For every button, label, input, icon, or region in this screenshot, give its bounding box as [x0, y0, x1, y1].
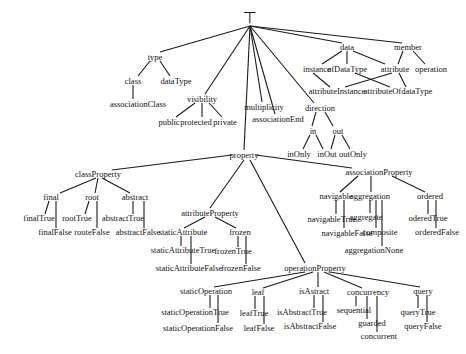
- node-frozenFalse: frozenFalse: [221, 264, 261, 273]
- edge: [244, 26, 250, 150]
- node-aggregate: aggregate: [349, 213, 382, 222]
- edge: [413, 51, 425, 64]
- edge: [322, 51, 342, 64]
- edge: [210, 160, 244, 208]
- node-staticOperationTrue: staticOperationTrue: [161, 308, 229, 317]
- node-leaf: leaf: [252, 288, 265, 297]
- node-orderedFalse: orderedFalse: [415, 228, 459, 237]
- node-multiplicity: multiplicity: [244, 103, 284, 112]
- node-attributeOfdataType: attributeOfdataType: [364, 87, 432, 96]
- node-protected: protected: [180, 118, 212, 127]
- tree-diagram: [0, 0, 466, 354]
- node-attributeInstance: attributeInstance: [309, 87, 366, 96]
- edge: [353, 51, 385, 64]
- node-finalTrue: finalTrue: [23, 214, 54, 223]
- node-sequential: sequential: [337, 306, 371, 315]
- node-aggregationNone: aggregationNone: [345, 246, 404, 255]
- node-navigable: navigable: [319, 192, 352, 201]
- edge: [160, 61, 170, 76]
- node-abstractTrue: abstractTrue: [102, 214, 144, 223]
- edge: [342, 135, 350, 149]
- node-visibility: visibility: [187, 95, 217, 104]
- node-final: final: [43, 193, 59, 202]
- node-leafTrue: leafTrue: [240, 309, 268, 318]
- node-leafFalse: leafFalse: [244, 324, 275, 333]
- node-out: out: [333, 127, 344, 136]
- node-isAstract: isAstract: [299, 287, 329, 296]
- edge: [331, 135, 335, 149]
- node-abstractFalse: abstractFalse: [116, 228, 160, 237]
- node-root: root: [85, 193, 99, 202]
- edge: [160, 26, 250, 52]
- node-aggregation: aggregation: [350, 192, 390, 201]
- node-direction: direction: [305, 104, 335, 113]
- node-operation: operation: [415, 65, 447, 74]
- node-frozen: frozen: [229, 228, 251, 237]
- node-associationClass: associationClass: [110, 100, 166, 109]
- edge: [325, 112, 333, 126]
- edge: [250, 160, 305, 263]
- edge: [102, 178, 130, 193]
- node-public: public: [158, 118, 179, 127]
- edge: [112, 155, 232, 170]
- node-guarded: guarded: [358, 319, 385, 328]
- node-query: query: [413, 287, 432, 296]
- node-composite: composite: [363, 228, 398, 237]
- node-property: property: [230, 151, 259, 160]
- node-member: member: [394, 43, 422, 52]
- node-staticAttributeFalse: staticAttributeFalse: [156, 264, 223, 273]
- node-in: in: [310, 127, 317, 136]
- node-queryFalse: queryFalse: [404, 322, 441, 331]
- node-private: private: [213, 118, 237, 127]
- node-staticAttribute: staticAttribute: [159, 228, 208, 237]
- edge: [138, 61, 150, 76]
- edge: [176, 103, 195, 117]
- node-outOnly: outOnly: [339, 150, 367, 159]
- node-associationProperty: associationProperty: [345, 168, 412, 177]
- node-class: class: [125, 77, 142, 86]
- node-concurrent: concurrent: [361, 332, 397, 341]
- edge: [392, 176, 425, 192]
- edge: [95, 178, 98, 193]
- node-data: data: [340, 43, 354, 52]
- node-staticOperationFalse: staticOperationFalse: [163, 324, 233, 333]
- node-type: type: [148, 53, 163, 62]
- node-routeFalse: routeFalse: [74, 228, 109, 237]
- node-orderedTrue: oderedTrue: [409, 214, 448, 223]
- node-ordered: ordered: [417, 192, 443, 201]
- edge: [250, 26, 262, 102]
- node-rootTrue: rootTrue: [62, 214, 91, 223]
- node-root: ⊤: [243, 10, 257, 26]
- node-isAbstractFalse: isAbstractFalse: [284, 322, 336, 331]
- edge: [316, 135, 323, 149]
- edge: [398, 51, 403, 64]
- edge: [340, 176, 358, 192]
- node-inOnly: inOnly: [287, 150, 311, 159]
- edge: [60, 178, 96, 193]
- edge: [330, 272, 420, 287]
- node-attributeProperty: attributeProperty: [181, 209, 239, 218]
- node-finalFalse: finalFalse: [38, 228, 72, 237]
- node-associationEnd: associationEnd: [252, 115, 303, 124]
- node-ofDataType: ofDataType: [327, 65, 367, 74]
- node-staticOperation: staticOperation: [180, 287, 232, 296]
- node-attribute: attribute: [381, 65, 409, 74]
- node-queryTrue: queryTrue: [400, 308, 435, 317]
- node-classProperty: classProperty: [75, 170, 121, 179]
- edge: [303, 135, 310, 149]
- node-staticAttributeTrue: staticAttributeTrue: [151, 246, 215, 255]
- edge: [205, 26, 250, 94]
- node-isAbstractTrue: isAbstractTrue: [277, 308, 327, 317]
- edge: [312, 112, 316, 126]
- node-inOut: inOut: [317, 150, 336, 159]
- node-dataType: dataType: [160, 77, 191, 86]
- edge: [209, 103, 222, 117]
- node-frozenTrue: frozenTrue: [214, 247, 251, 256]
- node-concurrency: concurrency: [347, 288, 389, 297]
- node-abstract: abstract: [122, 193, 148, 202]
- node-operationProperty: operationProperty: [284, 264, 345, 273]
